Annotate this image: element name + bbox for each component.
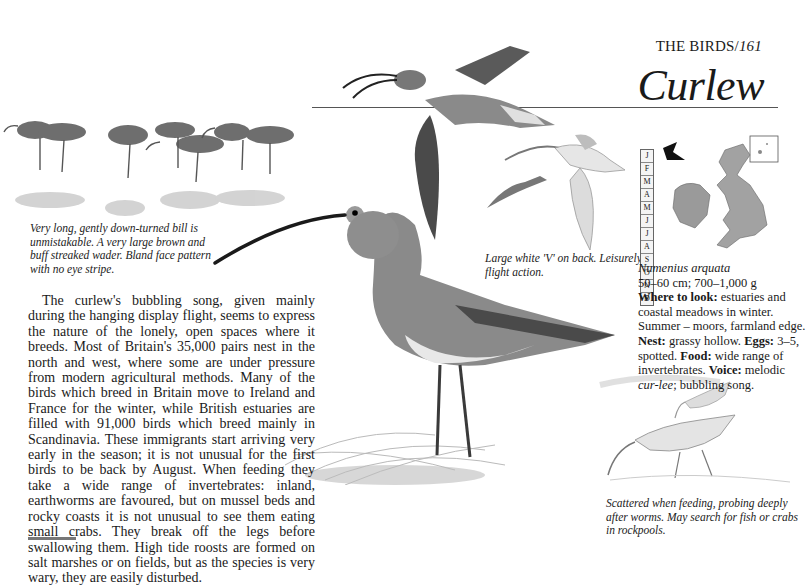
page-number: 161 [739,38,762,54]
section-header: THE BIRDS/161 [656,38,762,55]
month-cell: J [641,215,653,228]
voice-call: cur-lee [638,378,673,392]
food-label: Food: [680,349,711,363]
voice-label: Voice: [709,363,742,377]
month-cell: M [641,176,653,189]
month-cell: F [641,163,653,176]
nest-text: grassy hollow. [669,334,741,348]
section-label: THE BIRDS/ [656,38,739,54]
voice-pre: melodic [745,363,785,377]
nest-label: Nest: [638,334,666,348]
habitat-fact: Where to look: estuaries and coastal mea… [638,290,808,392]
identification-caption: Very long, gently down-turned bill is un… [30,222,220,276]
month-cell: J [641,228,653,241]
size-weight: 50–60 cm; 700–1,000 g [638,276,808,291]
footer-mark [28,537,76,540]
eggs-label: Eggs: [744,334,774,348]
distribution-map [655,130,805,260]
month-cell: A [641,189,653,202]
species-description: The curlew's bubbling song, given mainly… [28,293,315,586]
month-cell: M [641,202,653,215]
species-facts: Numenius arquata 50–60 cm; 700–1,000 g W… [638,261,808,392]
scientific-name: Numenius arquata [638,261,808,276]
page-title: Curlew [637,64,764,108]
map-ireland [673,183,710,228]
description-paragraph: The curlew's bubbling song, given mainly… [28,293,315,586]
voice-post: ; bubbling song. [673,378,754,392]
month-cell: A [641,241,653,254]
curlew-silhouette-icon [663,142,685,160]
where-label: Where to look: [638,290,718,304]
map-inset-box [750,136,778,162]
feeding-caption: Scattered when feeding, probing deeply a… [606,497,806,538]
month-cell: J [641,150,653,163]
